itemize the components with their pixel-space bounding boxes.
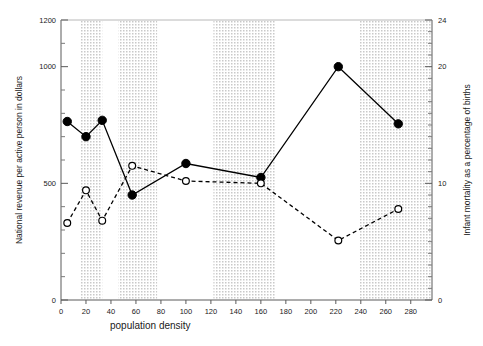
data-point	[129, 162, 136, 169]
data-point	[335, 237, 342, 244]
shaded-band	[81, 20, 102, 300]
y2-tick-label: 0	[438, 296, 442, 305]
x-tick-label: 160	[255, 307, 268, 316]
x-tick-label: 0	[59, 307, 63, 316]
data-point	[395, 206, 402, 213]
x-tick-label: 60	[132, 307, 140, 316]
x-tick-label: 120	[205, 307, 218, 316]
x-tick-label: 40	[107, 307, 115, 316]
x-axis-title: population density	[110, 320, 191, 331]
x-tick-label: 260	[380, 307, 393, 316]
y2-tick-label: 20	[438, 62, 446, 71]
data-point	[63, 117, 71, 125]
data-point	[394, 120, 402, 128]
y2-tick-label: 10	[438, 179, 446, 188]
x-tick-label: 180	[280, 307, 293, 316]
x-tick-label: 240	[355, 307, 368, 316]
y2-tick-label: 24	[438, 16, 446, 25]
data-point	[99, 217, 106, 224]
data-point	[64, 220, 71, 227]
data-point	[83, 187, 90, 194]
x-tick-label: 80	[157, 307, 165, 316]
shaded-bands-group	[81, 20, 432, 300]
x-tick-label: 200	[305, 307, 318, 316]
x-tick-label: 140	[230, 307, 243, 316]
y-axis-left-title: National revenue per active person in do…	[14, 76, 24, 244]
data-point	[128, 191, 136, 199]
y-tick-label: 0	[52, 296, 56, 305]
dual-axis-line-chart: 0204060801001201401601802002202402602800…	[0, 0, 483, 346]
x-tick-label: 20	[82, 307, 90, 316]
data-point	[82, 132, 90, 140]
x-tick-label: 280	[405, 307, 418, 316]
y-tick-label: 1000	[39, 62, 56, 71]
y-axis-right-title: Infant mortality as a percentage of birt…	[462, 84, 472, 236]
data-point	[98, 116, 106, 124]
data-point	[334, 62, 342, 70]
x-tick-label: 220	[330, 307, 343, 316]
data-point	[257, 180, 264, 187]
shaded-band	[360, 20, 432, 300]
y-tick-label: 500	[43, 179, 56, 188]
shaded-band	[118, 20, 157, 300]
shaded-band	[213, 20, 275, 300]
y-tick-label: 1200	[39, 16, 56, 25]
chart-root: 0204060801001201401601802002202402602800…	[0, 0, 483, 346]
data-point	[183, 178, 190, 185]
data-point	[182, 159, 190, 167]
x-tick-label: 100	[180, 307, 193, 316]
